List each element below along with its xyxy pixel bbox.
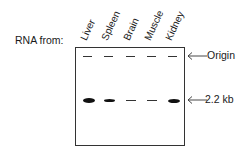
origin-well-liver [83,56,92,57]
origin-well-brain [126,56,135,57]
origin-label: Origin [207,49,235,61]
lane-label-brain: Brain [121,16,141,42]
band-muscle [147,100,157,101]
blot-membrane [75,47,185,146]
lane-label-liver: Liver [78,18,97,42]
band-liver [83,98,95,103]
origin-well-kidney [168,56,177,57]
band-spleen [104,99,115,102]
rna-from-label: RNA from: [15,34,63,46]
lane-label-spleen: Spleen [99,9,122,42]
origin-well-muscle [147,56,156,57]
origin-arrow-icon [186,51,208,61]
origin-well-spleen [104,56,113,57]
band-brain [126,100,136,101]
band-kidney [168,99,180,103]
band-size-label: 2.2 kb [205,93,234,105]
lane-label-kidney: Kidney [163,10,186,42]
